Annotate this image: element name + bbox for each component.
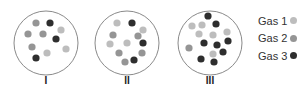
gas-1-particle [223, 28, 230, 35]
container-circle [178, 11, 242, 75]
gas-3-particle [224, 37, 231, 44]
legend-label: Gas 2 [258, 32, 287, 44]
gas-1-particle [43, 49, 50, 56]
gas-3-particle [212, 20, 219, 27]
gas-1-particle [62, 45, 69, 52]
gas-3-particle [46, 19, 53, 26]
gas-2-particle [121, 58, 128, 65]
gas-2-particle [138, 49, 145, 56]
gas-1-particle [106, 40, 113, 47]
gas-3-particle [210, 58, 217, 65]
gas-1-particle [188, 22, 195, 29]
gas-2-particle [39, 30, 46, 37]
gas-1-particle [139, 26, 146, 33]
gas-3-particle [219, 48, 226, 55]
gas-3-particle [128, 19, 135, 26]
container-label: I [45, 75, 48, 86]
gas-3-particle [52, 35, 59, 42]
container-I: I [14, 11, 78, 86]
gas-1-particle [123, 39, 130, 46]
container-label: II [124, 75, 130, 86]
gas-2-dot-icon [290, 35, 297, 42]
gas-2-particle [134, 32, 141, 39]
legend-item-gas-2: Gas 2 [258, 30, 297, 48]
gas-3-particle [213, 41, 220, 48]
legend-label: Gas 3 [258, 50, 287, 62]
gas-2-particle [24, 30, 31, 37]
legend-item-gas-3: Gas 3 [258, 47, 297, 65]
gas-2-particle [109, 31, 116, 38]
gas-2-particle [185, 44, 192, 51]
gas-1-particle [198, 21, 205, 28]
legend-label: Gas 1 [258, 15, 287, 27]
gas-3-dot-icon [290, 52, 297, 59]
gas-2-particle [32, 19, 39, 26]
gas-3-particle [130, 56, 137, 63]
gas-3-particle [32, 54, 39, 61]
gas-1-particle [209, 50, 216, 57]
gas-mixtures-diagram: IIIIII [0, 0, 250, 88]
container-III: III [178, 11, 242, 86]
gas-1-dot-icon [290, 17, 297, 24]
gas-3-particle [204, 12, 211, 19]
container-label: III [206, 75, 215, 86]
gas-2-particle [28, 43, 35, 50]
gas-3-particle [139, 39, 146, 46]
container-II: II [95, 11, 159, 86]
gas-1-particle [195, 30, 202, 37]
legend-item-gas-1: Gas 1 [258, 12, 297, 30]
gas-3-particle [200, 39, 207, 46]
gas-1-particle [113, 19, 120, 26]
gas-1-particle [209, 31, 216, 38]
gas-2-particle [115, 49, 122, 56]
gas-1-particle [57, 26, 64, 33]
legend: Gas 1 Gas 2 Gas 3 [258, 12, 297, 65]
gas-3-particle [197, 55, 204, 62]
container-circle [14, 11, 78, 75]
